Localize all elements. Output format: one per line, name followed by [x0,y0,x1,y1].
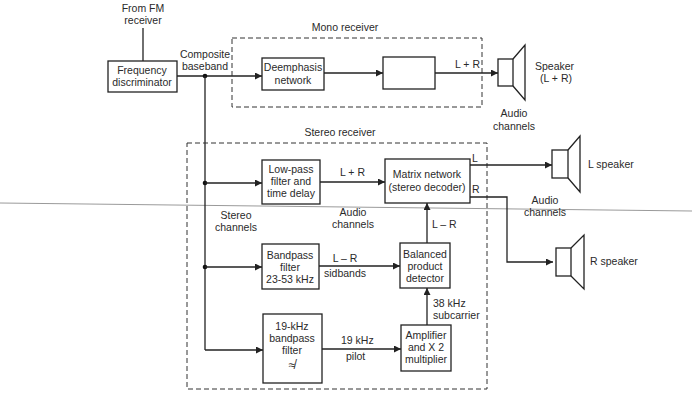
svg-text:bandpass: bandpass [269,332,315,344]
balanced-product-detector-block: Balanced product detector [400,243,450,288]
deemphasis-network-block: Deemphasis network [262,58,324,90]
svg-text:(stereo decoder): (stereo decoder) [388,181,465,193]
matrix-R-label: R [472,183,480,195]
composite-label-2: baseband [182,60,228,72]
lowpass-filter-block: Low-pass filter and time delay [262,160,320,204]
audio-channels-top-2: channels [493,120,535,132]
mono-output-block [383,57,435,89]
svg-text:discriminator: discriminator [112,76,172,88]
svg-text:Matrix network: Matrix network [393,168,462,180]
bandpass-filter-block: Bandpass filter 23-53 kHz [262,244,319,289]
mono-speaker-label-2: (L + R) [540,72,572,84]
mono-output-label: L + R [455,58,480,70]
bpf-output-label-2: sidbands [324,267,366,279]
stereo-channels-label-2: channels [215,221,257,233]
right-speaker-label: R speaker [590,255,638,267]
left-speaker-label: L speaker [588,158,634,170]
lpf-output-label: L + R [340,166,365,178]
audio-channels-right-2: channels [524,206,566,218]
svg-text:19-kHz: 19-kHz [275,320,308,332]
stereo-channels-label-1: Stereo [221,209,252,221]
svg-text:Frequency: Frequency [117,64,167,76]
stereo-receiver-title: Stereo receiver [304,126,376,138]
svg-text:filter: filter [282,344,302,356]
input-label-1: From FM [122,2,165,14]
mono-speaker-label-1: Speaker [535,60,575,72]
matrix-network-block: Matrix network (stereo decoder) [385,159,470,203]
right-speaker-icon [556,235,584,289]
svg-text:Deemphasis: Deemphasis [264,61,322,73]
input-label-2: receiver [124,14,162,26]
pilot-label-2: pilot [346,350,365,362]
svg-text:Amplifier: Amplifier [406,329,447,341]
audio-channels-right-1: Audio [532,194,559,206]
svg-text:Low-pass: Low-pass [269,163,314,175]
svg-text:time delay: time delay [267,187,316,199]
svg-text:filter and: filter and [271,175,311,187]
frequency-discriminator-block: Frequency discriminator [108,61,177,92]
subcarrier-label-1: 38 kHz [433,297,466,309]
svg-text:detector: detector [406,272,444,284]
svg-text:and X 2: and X 2 [408,341,444,353]
fm-stereo-receiver-diagram: From FM receiver Frequency discriminator… [0,0,692,405]
svg-text:23-53 kHz: 23-53 kHz [266,273,314,285]
amplifier-multiplier-block: Amplifier and X 2 multiplier [401,325,451,371]
audio-channels-mid-1: Audio [340,206,367,218]
pilot-label-1: 19 kHz [341,334,374,346]
svg-text:multiplier: multiplier [405,353,448,365]
svg-text:network: network [275,74,313,86]
svg-text:Balanced: Balanced [403,248,447,260]
bpf-output-label-1: L – R [333,252,358,264]
matrix-L-label: L [472,152,478,164]
composite-label-1: Composite [180,48,230,60]
left-speaker-icon [552,136,580,192]
pilot-bandpass-filter-block: 19-kHz bandpass filter ≉ [263,314,322,383]
detector-output-label: L – R [432,218,457,230]
subcarrier-label-2: subcarrier [433,309,480,321]
audio-channels-top-1: Audio [501,107,528,119]
svg-text:Bandpass: Bandpass [267,249,314,261]
svg-text:filter: filter [280,261,300,273]
svg-text:product: product [407,260,442,272]
mono-receiver-title: Mono receiver [312,21,379,33]
mono-speaker-icon [498,45,525,100]
audio-channels-mid-2: channels [332,218,374,230]
